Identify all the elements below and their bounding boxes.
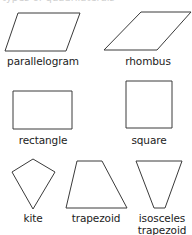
rhombus-shape: [104, 12, 191, 50]
square-label: square: [122, 134, 176, 146]
rhombus-label: rhombus: [118, 55, 178, 67]
parallelogram-shape: [5, 13, 80, 51]
kite-shape: [12, 159, 55, 209]
isosceles-trapezoid-label-line2: trapezoid: [134, 224, 190, 235]
isosceles-trapezoid-label-line1: isosceles: [134, 212, 190, 224]
parallelogram-label: parallelogram: [2, 55, 84, 67]
square-shape: [126, 81, 172, 128]
trapezoid-shape: [66, 161, 127, 208]
rectangle-shape: [13, 91, 72, 129]
isosceles-trapezoid-shape: [136, 161, 182, 208]
rectangle-label: rectangle: [10, 134, 76, 146]
kite-label: kite: [16, 212, 50, 224]
trapezoid-label: trapezoid: [68, 212, 124, 224]
quadrilaterals-diagram: [0, 0, 192, 235]
